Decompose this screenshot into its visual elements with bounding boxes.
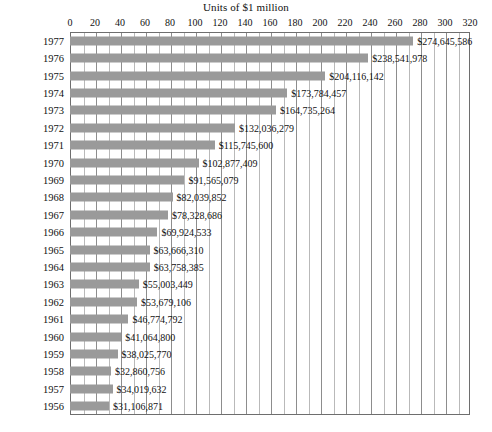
x-axis-tick-label: 120: [213, 17, 228, 28]
bar: [70, 141, 215, 150]
bar-value-label: $31,106,871: [109, 401, 163, 412]
bar: [70, 350, 118, 359]
bar: [70, 193, 173, 202]
bar: [70, 332, 121, 341]
bar-value-label: $38,025,770: [118, 349, 172, 360]
bar-value-label: $102,877,409: [199, 157, 258, 168]
bar: [70, 123, 235, 132]
gridline: [446, 33, 447, 414]
x-axis-tick-label: 140: [238, 17, 253, 28]
bar: [70, 367, 111, 376]
bar-value-label: $204,116,142: [325, 70, 384, 81]
x-axis-tick-label: 180: [288, 17, 303, 28]
y-axis-category-label: 1959: [6, 349, 64, 360]
bar-chart: Units of $1 million 02040608010012014016…: [0, 0, 492, 432]
x-axis-tick-label: 40: [115, 17, 125, 28]
y-axis-category-label: 1977: [6, 35, 64, 46]
bar-value-label: $91,565,079: [184, 174, 238, 185]
gridline: [434, 33, 435, 414]
x-axis-tick-label: 100: [188, 17, 203, 28]
bar: [70, 263, 150, 272]
x-axis-tick-label: 280: [413, 17, 428, 28]
y-axis-category-label: 1971: [6, 140, 64, 151]
y-axis-category-label: 1968: [6, 192, 64, 203]
y-axis-category-label: 1956: [6, 401, 64, 412]
x-axis-tick-label: 300: [438, 17, 453, 28]
x-axis-tick-label: 60: [140, 17, 150, 28]
bar-value-label: $55,003,449: [139, 279, 193, 290]
bar-value-label: $132,036,279: [235, 122, 294, 133]
gridline: [359, 33, 360, 414]
y-axis-category-label: 1958: [6, 366, 64, 377]
y-axis-category-label: 1972: [6, 122, 64, 133]
bar: [70, 36, 413, 45]
bar-value-label: $69,924,533: [157, 227, 211, 238]
gridline: [396, 33, 397, 414]
bar: [70, 88, 287, 97]
bar: [70, 402, 109, 411]
bar-value-label: $164,735,264: [276, 105, 335, 116]
x-axis-tick-label: 200: [313, 17, 328, 28]
bar: [70, 54, 368, 63]
gridline: [459, 33, 460, 414]
y-axis-category-label: 1974: [6, 87, 64, 98]
y-axis-category-label: 1957: [6, 383, 64, 394]
bar-value-label: $274,645,586: [413, 35, 472, 46]
bar: [70, 228, 157, 237]
bar: [70, 106, 276, 115]
y-axis-category-label: 1960: [6, 331, 64, 342]
bar: [70, 245, 150, 254]
bar-value-label: $34,019,632: [113, 383, 167, 394]
y-axis-category-label: 1967: [6, 209, 64, 220]
bar-value-label: $46,774,792: [128, 314, 182, 325]
bar: [70, 384, 113, 393]
x-axis-tick-label: 160: [263, 17, 278, 28]
x-axis-tick-label: 0: [68, 17, 73, 28]
x-axis-tick-label: 260: [388, 17, 403, 28]
gridline: [421, 33, 422, 414]
bar: [70, 210, 168, 219]
bar: [70, 71, 325, 80]
gridline: [384, 33, 385, 414]
y-axis-category-label: 1975: [6, 70, 64, 81]
y-axis-category-label: 1969: [6, 174, 64, 185]
y-axis-category-label: 1973: [6, 105, 64, 116]
bar-value-label: $63,666,310: [150, 244, 204, 255]
bar: [70, 280, 139, 289]
y-axis-category-label: 1961: [6, 314, 64, 325]
bar-value-label: $53,679,106: [137, 296, 191, 307]
bar: [70, 315, 128, 324]
bar-value-label: $63,758,385: [150, 262, 204, 273]
bar-value-label: $32,860,756: [111, 366, 165, 377]
bar: [70, 175, 184, 184]
y-axis-category-label: 1962: [6, 296, 64, 307]
y-axis-category-label: 1966: [6, 227, 64, 238]
y-axis-category-label: 1964: [6, 262, 64, 273]
y-axis-category-label: 1970: [6, 157, 64, 168]
chart-title: Units of $1 million: [0, 1, 492, 13]
bar: [70, 158, 199, 167]
bar-value-label: $41,064,800: [121, 331, 175, 342]
bar-value-label: $78,328,686: [168, 209, 222, 220]
gridline: [409, 33, 410, 414]
x-axis-tick-label: 220: [338, 17, 353, 28]
bar-value-label: $173,784,457: [287, 87, 346, 98]
bar: [70, 297, 137, 306]
x-axis-tick-label: 80: [165, 17, 175, 28]
x-axis-tick-label: 240: [363, 17, 378, 28]
bar-value-label: $238,541,978: [368, 53, 427, 64]
bar-value-label: $82,039,852: [173, 192, 227, 203]
x-axis-tick-label: 20: [90, 17, 100, 28]
x-axis-tick-label: 320: [463, 17, 478, 28]
gridline: [371, 33, 372, 414]
bar-value-label: $115,745,600: [215, 140, 274, 151]
y-axis-category-label: 1965: [6, 244, 64, 255]
y-axis-category-label: 1976: [6, 53, 64, 64]
y-axis-category-label: 1963: [6, 279, 64, 290]
